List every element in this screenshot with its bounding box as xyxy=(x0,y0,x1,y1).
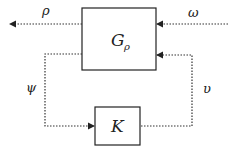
block-g-subscript: ρ xyxy=(123,41,130,52)
block-g-label: G xyxy=(111,30,125,50)
signal-omega: ω xyxy=(157,5,228,24)
signal-rho-label: ρ xyxy=(41,3,50,18)
signal-upsilon-label: υ xyxy=(203,81,211,96)
signal-rho: ρ xyxy=(10,3,82,24)
signal-psi: ψ xyxy=(26,54,94,126)
signal-psi-label: ψ xyxy=(26,80,37,95)
block-k: K xyxy=(95,107,140,145)
block-diagram: G ρ K ρ ω ψ υ xyxy=(0,0,237,152)
signal-upsilon: υ xyxy=(141,55,211,126)
block-k-label: K xyxy=(110,116,125,136)
signal-omega-label: ω xyxy=(188,5,199,20)
block-g: G ρ xyxy=(82,8,156,70)
